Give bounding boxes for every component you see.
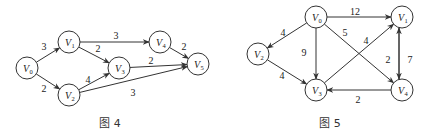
node-subscript: 0: [30, 68, 33, 75]
node-v0: V0: [16, 57, 38, 79]
edge-weight: 9: [302, 47, 307, 58]
edge-v0-v1: 3: [36, 41, 59, 62]
graph-diagrams: 32324322V0V1V2V3V4V5图 4 1249544272V0V1V2…: [0, 0, 429, 140]
node-v1: V1: [58, 31, 80, 53]
edge-v2-v3: 4: [79, 73, 110, 90]
edge-weight: 3: [114, 30, 119, 41]
figure-caption: 图 4: [99, 117, 121, 130]
edge-v0-v3: 9: [302, 28, 317, 79]
node-subscript: 2: [72, 95, 75, 102]
node-v4: V4: [149, 31, 171, 53]
edge-v0-v2: 4: [267, 23, 306, 48]
edge-weight: 3: [131, 87, 136, 98]
node-subscript: 3: [319, 90, 322, 97]
edge-weight: 2: [356, 94, 361, 105]
edge-weight: 2: [182, 41, 187, 52]
edge-v4-v5: 2: [170, 41, 189, 58]
edge-weight: 4: [86, 74, 91, 85]
edge-v0-v1: 12: [327, 6, 391, 17]
node-subscript: 0: [319, 17, 322, 24]
edge-weight: 5: [343, 27, 348, 38]
node-v2: V2: [247, 43, 269, 65]
edge-v3-v5: 2: [130, 55, 187, 67]
edge-weight: 4: [364, 35, 369, 46]
edge-v4-v1: 2: [386, 28, 400, 79]
edge-v2-v3: 4: [267, 60, 306, 84]
edge-weight: 4: [281, 27, 286, 38]
figure-caption: 图 5: [319, 117, 341, 130]
node-v2: V2: [58, 84, 80, 106]
node-subscript: 3: [122, 68, 125, 75]
edge-v1-v3: 2: [79, 43, 109, 63]
node-subscript: 5: [201, 64, 204, 71]
node-v4: V4: [391, 79, 413, 101]
node-subscript: 1: [405, 17, 408, 24]
node-v1: V1: [391, 6, 413, 28]
edge-weight: 2: [42, 83, 47, 94]
edge-weight: 4: [280, 70, 285, 81]
edge-v0-v2: 2: [36, 74, 59, 94]
edge-v1-v4: 7: [399, 28, 413, 79]
figure-5-graph: 1249544272V0V1V2V3V4图 5: [247, 6, 413, 130]
edge-weight: 2: [149, 55, 154, 66]
edge-weight: 2: [96, 43, 101, 54]
node-subscript: 2: [261, 54, 264, 61]
edge-weight: 2: [386, 54, 391, 65]
figure-4-graph: 32324322V0V1V2V3V4V5图 4: [16, 30, 209, 130]
edge-weight: 3: [42, 41, 47, 52]
edge-weight: 12: [350, 6, 360, 17]
node-v5: V5: [187, 53, 209, 75]
node-v3: V3: [305, 79, 327, 101]
edge-v4-v3: 2: [327, 90, 391, 105]
node-v3: V3: [108, 57, 130, 79]
node-subscript: 1: [72, 42, 75, 49]
edge-weight: 7: [408, 54, 413, 65]
edge-v2-v5: 3: [80, 67, 188, 98]
node-v0: V0: [305, 6, 327, 28]
edge-v1-v4: 3: [80, 30, 149, 42]
